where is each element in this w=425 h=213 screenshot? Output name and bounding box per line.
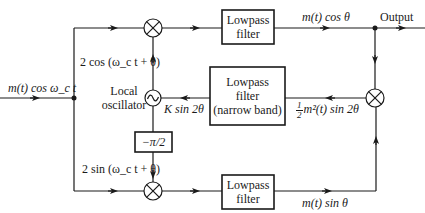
output-label: Output — [380, 11, 413, 23]
input-signal-label: m(t) cos ω_c t — [8, 82, 76, 94]
phase-shift-label: −π/2 — [135, 135, 172, 149]
bottom-output-signal-label: m(t) sin θ — [302, 197, 348, 209]
output-junction-dot — [373, 26, 378, 31]
top-output-signal-label: m(t) cos θ — [302, 11, 350, 23]
control-signal-label: K sin 2θ — [164, 103, 204, 115]
input-junction-dot — [72, 96, 77, 101]
top-carrier-label: 2 cos (ω_c t + θ) — [80, 56, 160, 68]
product-signal-label: 1 2 m²(t) sin 2θ — [296, 101, 359, 120]
top-lowpass-label: Lowpass filter — [222, 13, 274, 41]
one-half-fraction: 1 2 — [296, 101, 303, 120]
bottom-lowpass-label: Lowpass filter — [222, 178, 274, 206]
narrow-lowpass-label: Lowpass filter (narrow band) — [210, 75, 285, 117]
bottom-carrier-label: 2 sin (ω_c t + θ) — [82, 163, 160, 175]
oscillator-label: Local oscillator — [96, 84, 152, 112]
